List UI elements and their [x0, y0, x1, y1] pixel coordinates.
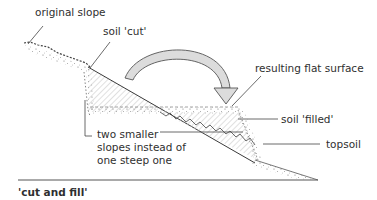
cut-and-fill-diagram [0, 0, 377, 200]
label-soil-filled: soil 'filled' [281, 113, 333, 126]
label-soil-cut: soil 'cut' [103, 25, 146, 38]
label-line-3: one steep one [97, 154, 186, 167]
diagram-caption: 'cut and fill' [18, 186, 88, 199]
label-resulting-flat-surface: resulting flat surface [255, 62, 364, 75]
label-two-smaller-slopes: two smaller slopes instead of one steep … [97, 128, 186, 167]
label-line-1: two smaller [97, 128, 186, 141]
original-slope-soil [24, 43, 90, 72]
leader-original-slope [28, 26, 43, 44]
label-line-2: slopes instead of [97, 141, 186, 154]
label-original-slope: original slope [35, 6, 106, 19]
curved-arrow-icon [125, 50, 238, 104]
label-topsoil: topsoil [326, 138, 361, 151]
leader-soil-cut [90, 42, 110, 68]
leader-flat-surface [232, 76, 261, 106]
